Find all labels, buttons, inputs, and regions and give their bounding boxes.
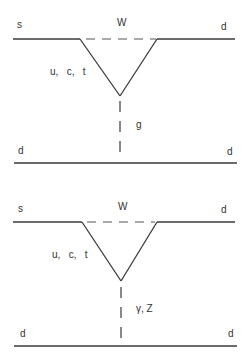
diagram-electroweak-penguin: s W d u, c, t γ, Z d d	[13, 201, 237, 346]
label-boson-gamma-z: γ, Z	[136, 303, 153, 314]
label-boson-g: g	[136, 119, 142, 130]
label-d-bottom-right: d	[227, 146, 233, 157]
label-s: s	[18, 203, 23, 214]
label-w: W	[118, 201, 128, 212]
label-d-bottom-right: d	[228, 328, 234, 339]
label-d-bottom-left: d	[20, 328, 26, 339]
label-d-top-right: d	[221, 21, 227, 32]
label-s: s	[17, 19, 22, 30]
diagram-gluon-penguin: s W d u, c, t g d d	[13, 17, 237, 163]
internal-quark-left	[80, 39, 120, 96]
internal-quark-left	[82, 222, 121, 281]
label-quarks: u, c, t	[52, 249, 88, 260]
label-d-top-right: d	[221, 204, 227, 215]
penguin-diagrams: s W d u, c, t g d d s W d u, c, t γ, Z d…	[0, 0, 249, 364]
internal-quark-right	[121, 222, 157, 281]
label-d-bottom-left: d	[18, 145, 24, 156]
label-quarks: u, c, t	[50, 66, 86, 77]
internal-quark-right	[120, 39, 157, 96]
label-w: W	[117, 17, 127, 28]
